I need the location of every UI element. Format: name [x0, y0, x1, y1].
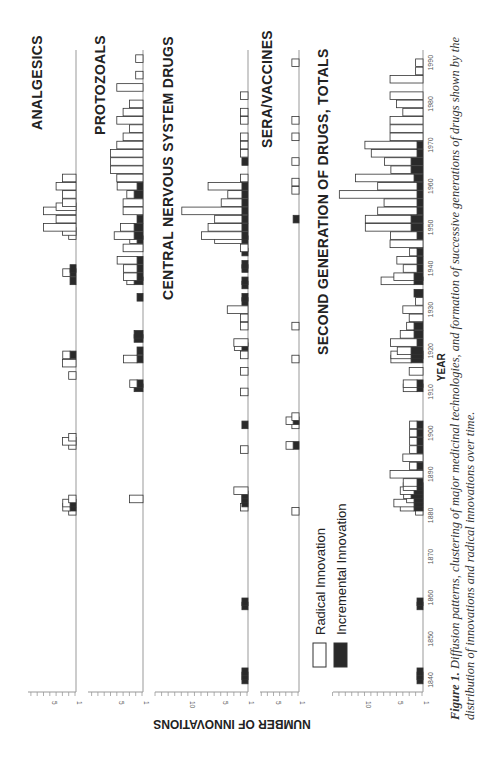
bar-radical — [69, 495, 76, 503]
bar-radical — [129, 495, 143, 503]
bar-incremental — [70, 277, 76, 285]
bar-incremental — [414, 322, 423, 330]
bar-radical — [378, 182, 417, 190]
year-tick-label: 1890 — [427, 466, 434, 482]
bar-radical — [182, 207, 242, 215]
axis-tick-label: 1 — [143, 701, 150, 705]
bar-incremental — [70, 265, 76, 273]
bar-incremental — [417, 421, 423, 429]
panel-title: SECOND GENERATION OF DRUGS, TOTALS — [315, 48, 331, 355]
bar-incremental — [242, 294, 248, 302]
bar-incremental — [242, 598, 248, 606]
bar-incremental — [411, 166, 423, 174]
bar-radical — [234, 487, 248, 495]
year-tick-label: 1980 — [427, 96, 434, 112]
bar-radical — [390, 470, 423, 478]
bar-radical — [136, 71, 143, 79]
bar-radical — [123, 199, 143, 207]
bar-radical — [129, 100, 143, 108]
bar-incremental — [417, 380, 423, 388]
bar-radical — [240, 141, 248, 149]
bar-radical — [123, 355, 137, 363]
bar-incremental — [417, 199, 423, 207]
year-tick-label: 1930 — [427, 302, 434, 318]
bar-incremental — [137, 256, 143, 264]
bar-radical — [240, 446, 248, 454]
year-tick-label: 1880 — [427, 508, 434, 524]
bar-radical — [409, 368, 423, 376]
bar-radical — [390, 240, 423, 248]
bar-incremental — [137, 355, 143, 363]
bar-radical — [240, 108, 248, 116]
bar-incremental — [417, 207, 423, 215]
bar-incremental — [242, 232, 248, 240]
panel-protozoals — [111, 50, 144, 692]
bar-radical — [390, 232, 417, 240]
caption-text: Diffusion patterns, clustering of major … — [448, 37, 477, 720]
bar-radical — [286, 442, 293, 450]
figure-chart: 1515151015151018401850186018701880189019… — [0, 0, 493, 758]
bar-radical — [117, 117, 143, 125]
bar-radical — [391, 166, 411, 174]
bar-incremental — [417, 248, 423, 256]
bar-incremental — [70, 351, 76, 359]
bar-radical — [292, 178, 299, 186]
bar-incremental — [242, 261, 248, 269]
year-tick-label: 1960 — [427, 178, 434, 194]
bar-incremental — [134, 331, 143, 339]
bar-radical — [339, 191, 417, 199]
bar-radical — [384, 199, 417, 207]
bar-radical — [117, 182, 137, 190]
bar-radical — [69, 372, 76, 380]
bar-radical — [240, 92, 248, 100]
bar-radical — [240, 368, 248, 376]
bar-incremental — [417, 256, 423, 264]
bar-incremental — [417, 141, 423, 149]
panel-title: CENTRAL NERVOUS SYSTEM DRUGS — [160, 36, 176, 300]
bar-radical — [63, 351, 70, 359]
bar-radical — [117, 84, 143, 92]
chart-panels — [44, 50, 424, 692]
bar-radical — [409, 314, 423, 322]
bar-radical — [397, 256, 417, 264]
axis-tick-label: 5 — [51, 701, 58, 705]
bar-radical — [62, 199, 76, 207]
bar-radical — [240, 322, 248, 330]
bar-radical — [202, 232, 242, 240]
bar-radical — [111, 166, 144, 174]
bar-radical — [130, 380, 137, 388]
bar-radical — [371, 149, 417, 157]
labels: ANALGESICSPROTOZOALSCENTRAL NERVOUS SYST… — [29, 30, 447, 731]
bar-radical — [127, 191, 134, 199]
bar-radical — [62, 359, 76, 367]
year-tick-label: 1870 — [427, 549, 434, 565]
bar-radical — [397, 347, 411, 355]
bar-incremental — [417, 182, 423, 190]
bar-incremental — [242, 277, 248, 285]
bar-radical — [44, 224, 77, 232]
bar-incremental — [417, 446, 423, 454]
bar-incremental — [417, 438, 423, 446]
bar-incremental — [414, 273, 423, 281]
bar-radical — [292, 187, 299, 195]
bar-radical — [410, 429, 417, 437]
bar-incremental — [417, 479, 423, 487]
bar-radical — [378, 207, 417, 215]
bar-radical — [365, 215, 411, 223]
bar-radical — [208, 182, 242, 190]
year-tick-label: 1900 — [427, 425, 434, 441]
bar-radical — [416, 59, 423, 67]
bar-radical — [292, 117, 299, 125]
bar-radical — [403, 454, 423, 462]
bar-incremental — [134, 191, 143, 199]
bar-incremental — [134, 224, 143, 232]
bar-incremental — [137, 380, 143, 388]
bar-radical — [227, 306, 248, 314]
axis-tick-label: 1 — [76, 701, 83, 705]
bar-radical — [416, 298, 423, 306]
bar-incremental — [134, 232, 143, 240]
bar-radical — [410, 462, 417, 470]
bar-radical — [56, 182, 76, 190]
bar-incremental — [417, 339, 423, 347]
legend-label-radical: Radical Innovation — [313, 528, 328, 635]
